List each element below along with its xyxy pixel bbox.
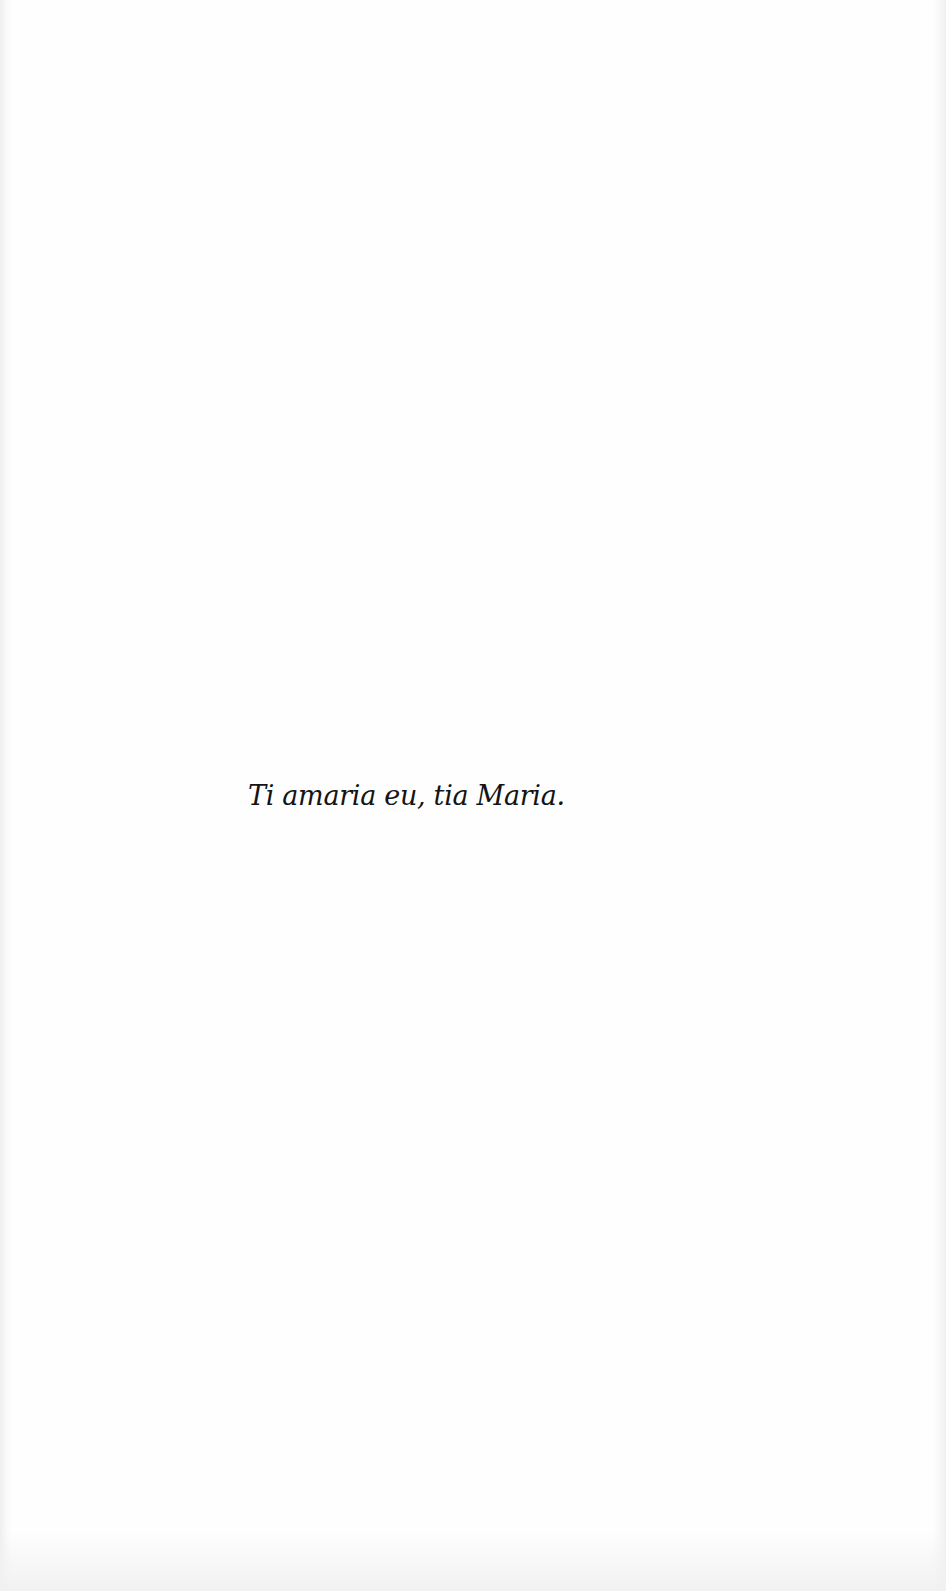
epigraph-text: Ti amaria eu, tia Maria. — [248, 779, 565, 813]
page-edge-left — [0, 0, 12, 1591]
page-edge-bottom — [0, 1531, 946, 1591]
page-edge-right — [932, 0, 946, 1591]
book-page: Ti amaria eu, tia Maria. — [0, 0, 946, 1591]
